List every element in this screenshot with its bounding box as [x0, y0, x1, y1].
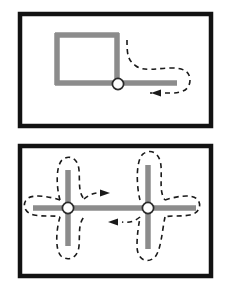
panel-bottom-border: [20, 146, 211, 276]
junction-node: [112, 78, 123, 89]
figure-root: [0, 0, 228, 287]
left-junction-node: [62, 202, 73, 213]
right-junction-node: [142, 202, 153, 213]
panel-top: [0, 0, 228, 140]
panel-bottom: [0, 139, 228, 287]
